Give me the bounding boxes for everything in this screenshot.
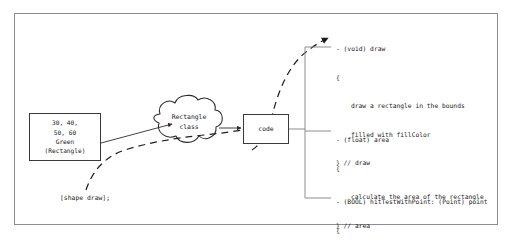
method-draw-open-brace: { <box>336 73 465 83</box>
method-area-signature: - (float) area <box>336 135 484 145</box>
rectangle-class-label: Rectangle class <box>158 113 220 132</box>
connector-message-dashed <box>86 129 250 190</box>
method-area-open-brace: { <box>336 164 484 174</box>
shape-draw-message: [shape draw]; <box>60 194 110 202</box>
method-draw-signature: - (void) draw <box>336 44 465 54</box>
data-line-1: 50, 60 <box>54 128 76 137</box>
data-line-3: (Rectangle) <box>45 146 86 155</box>
method-draw-body-0: draw a rectangle in the bounds <box>336 101 465 111</box>
cloud-line-1: Rectangle <box>158 113 220 123</box>
code-box: code <box>243 114 289 144</box>
diagram-canvas: 30, 40, 50, 60 Green (Rectangle) Rectang… <box>0 0 514 245</box>
method-hit-open-brace: { <box>336 226 488 236</box>
connector-method-bracket <box>289 47 331 198</box>
data-line-0: 30, 40, <box>52 118 78 127</box>
method-block-hit-test: - (BOOL) hitTestWithPoint: (Point) point… <box>336 178 488 245</box>
data-line-2: Green <box>56 137 75 146</box>
rectangle-instance-data: 30, 40, 50, 60 Green (Rectangle) <box>29 113 101 161</box>
cloud-line-2: class <box>158 123 220 133</box>
code-box-label: code <box>258 125 273 133</box>
method-hit-signature: - (BOOL) hitTestWithPoint: (Point) point <box>336 197 488 207</box>
